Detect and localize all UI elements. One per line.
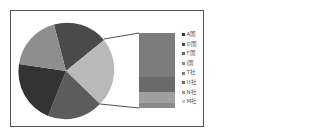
legend-label: N社 xyxy=(187,88,197,98)
bar-segment-m xyxy=(139,103,175,108)
legend-swatch-icon xyxy=(182,91,185,94)
legend-item-a: A国 xyxy=(182,30,212,40)
legend-item-h: H社 xyxy=(182,78,212,88)
legend-label: D国 xyxy=(187,40,197,50)
legend-label: F国 xyxy=(187,49,196,59)
legend-label: T社 xyxy=(187,68,196,78)
legend-swatch-icon xyxy=(182,81,185,84)
legend-label: H社 xyxy=(187,78,197,88)
legend-item-n: N社 xyxy=(182,88,212,98)
bar-segment-h xyxy=(139,77,175,92)
legend: A国 D国 F国 I国 T社 H社 N社 M社 xyxy=(182,30,212,107)
legend-item-d: D国 xyxy=(182,40,212,50)
connector-top xyxy=(104,33,139,39)
legend-swatch-icon xyxy=(182,52,185,55)
bar-segment-t xyxy=(139,33,175,77)
legend-swatch-icon xyxy=(182,62,185,65)
connector-bottom xyxy=(100,104,139,108)
legend-item-m: M社 xyxy=(182,97,212,107)
legend-swatch-icon xyxy=(182,43,185,46)
legend-label: A国 xyxy=(187,30,197,40)
legend-item-f: F国 xyxy=(182,49,212,59)
legend-item-i: I国 xyxy=(182,59,212,69)
legend-swatch-icon xyxy=(182,72,185,75)
legend-swatch-icon xyxy=(182,100,185,103)
bar-segment-n xyxy=(139,92,175,103)
legend-swatch-icon xyxy=(182,33,185,36)
legend-item-t: T社 xyxy=(182,68,212,78)
legend-label: M社 xyxy=(187,97,198,107)
legend-label: I国 xyxy=(187,59,195,69)
